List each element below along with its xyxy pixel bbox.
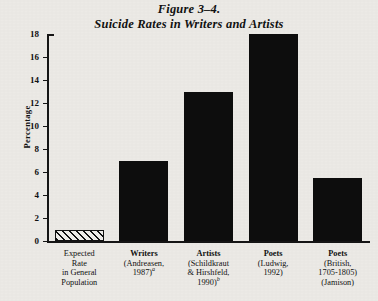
footnote-marker: a (152, 266, 155, 272)
category-sub-line: (Jamison) (305, 278, 370, 288)
figure-number: Figure 3–4. (0, 2, 378, 17)
y-tick-label: 14 (17, 76, 39, 85)
category-name: Writers (112, 249, 177, 259)
category-name: Poets (241, 249, 306, 259)
category-sub-line: (British, (305, 259, 370, 269)
bar (184, 92, 233, 242)
category-sub-line: (Schildkraut (176, 259, 241, 269)
y-axis-line (47, 34, 49, 243)
y-tick-label: 16 (17, 53, 39, 62)
category-label: Poets(British,1705-1805)(Jamison) (305, 249, 370, 287)
x-axis-line (47, 241, 370, 243)
figure-title: Figure 3–4. Suicide Rates in Writers and… (0, 2, 378, 32)
bar (55, 230, 104, 242)
y-tick-label: 2 (17, 214, 39, 223)
figure-title-text: Suicide Rates in Writers and Artists (0, 17, 378, 32)
category-sub-line: Population (47, 278, 112, 288)
category-label: Poets(Ludwig,1992) (241, 249, 306, 278)
category-label: Artists(Schildkraut& Hirshfeld,1990)b (176, 249, 241, 287)
category-name: Expected (47, 249, 112, 259)
category-sub-line: 1992) (241, 268, 306, 278)
y-tick-label: 0 (17, 237, 39, 246)
category-label: Writers(Andreasen,1987)a (112, 249, 177, 278)
category-sub-line: (Andreasen, (112, 259, 177, 269)
category-name: Artists (176, 249, 241, 259)
bar (313, 178, 362, 241)
y-tick-label: 12 (17, 99, 39, 108)
category-sub-line: 1705-1805) (305, 268, 370, 278)
bar (119, 161, 168, 242)
category-sub-line: (Ludwig, (241, 259, 306, 269)
y-tick-label: 8 (17, 145, 39, 154)
bar-chart: Figure 3–4. Suicide Rates in Writers and… (0, 0, 378, 301)
category-sub-line: & Hirshfeld, (176, 268, 241, 278)
bar (249, 34, 298, 241)
y-axis-top-cap (47, 34, 54, 36)
category-sub-line: 1987)a (112, 268, 177, 278)
category-name: Poets (305, 249, 370, 259)
category-sub-line: in General (47, 268, 112, 278)
y-tick-label: 6 (17, 168, 39, 177)
category-label: ExpectedRatein GeneralPopulation (47, 249, 112, 287)
y-tick-label: 18 (17, 30, 39, 39)
category-sub-line: 1990)b (176, 278, 241, 288)
y-tick-label: 4 (17, 191, 39, 200)
y-tick-label: 10 (17, 122, 39, 131)
category-sub-line: Rate (47, 259, 112, 269)
footnote-marker: b (217, 276, 220, 282)
